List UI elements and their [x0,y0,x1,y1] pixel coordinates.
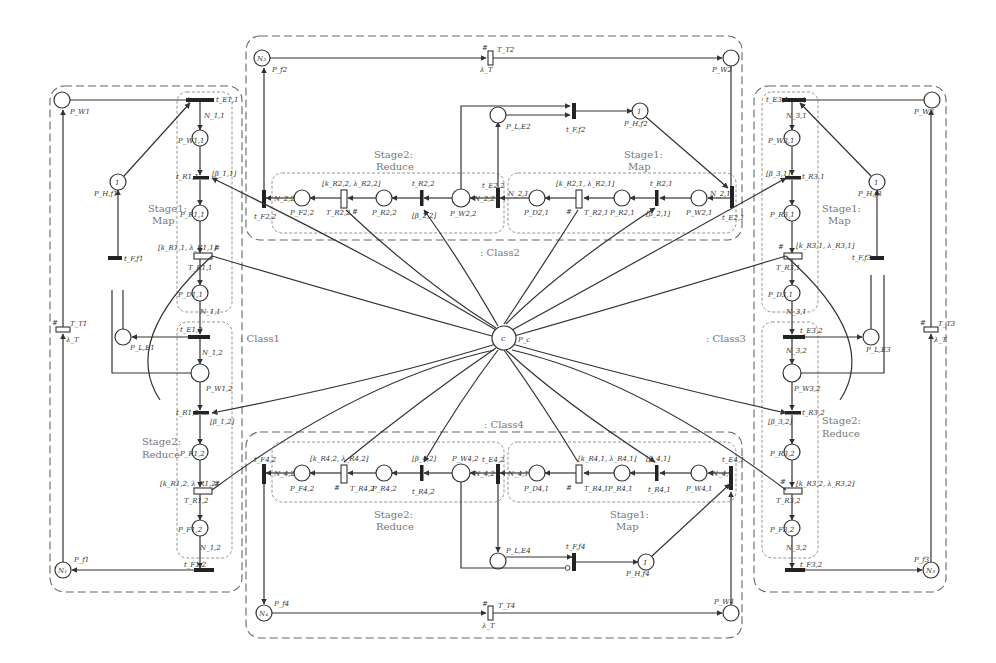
transition-TR41 [576,465,582,483]
svg-text:T_R2,1: T_R2,1 [584,209,609,217]
svg-text:#: # [52,319,58,327]
svg-text:1: 1 [115,179,119,187]
svg-text:Stage1:: Stage1: [822,203,861,214]
svg-text:#: # [482,44,488,52]
svg-text:P_D2,1: P_D2,1 [523,209,549,217]
transition-tff4 [572,553,576,571]
svg-text:P_H,f2: P_H,f2 [623,120,648,128]
place-pd21 [529,190,545,206]
svg-text:Stage2:: Stage2: [374,149,413,160]
svg-text:t_E4,2: t_E4,2 [482,456,505,464]
svg-text:T_R2,2: T_R2,2 [326,209,351,217]
transition-tf42 [262,464,266,484]
transition-tff3 [870,256,884,260]
svg-text:λ_T: λ_T [933,336,948,344]
place-ple3 [863,329,879,345]
transition-tr22 [420,190,424,206]
class3-boundary [754,86,946,592]
svg-text:N_3,1: N_3,1 [785,308,807,316]
svg-text:N_2,1: N_2,1 [507,190,529,198]
class2-label: : Class2 [480,247,520,258]
class1-stage2-subtitle: Reduce [142,449,180,460]
class1-stage2-title: Stage2: [142,436,181,447]
svg-text:t_E2,2: t_E2,2 [482,182,505,190]
place-pw42 [452,464,470,482]
svg-text:P_W3,2: P_W3,2 [793,385,821,393]
svg-text:P_R1,2: P_R1,2 [179,450,205,458]
svg-text:T_T4: T_T4 [498,602,515,610]
transition-tr42 [420,465,424,481]
svg-text:t_E3,1: t_E3,1 [766,96,789,104]
svg-text:[k_R2,1, λ_R2,1]: [k_R2,1, λ_R2,1] [556,180,615,188]
svg-text:P_R4,1: P_R4,1 [607,485,633,493]
class4-label: : Class4 [484,419,524,430]
svg-text:P_W1,1: P_W1,1 [177,137,205,145]
svg-text:P_R3,1: P_R3,1 [769,211,795,219]
svg-text:Stage2:: Stage2: [374,509,413,520]
svg-text:[k_R4,1, λ_R4,1]: [k_R4,1, λ_R4,1] [578,455,637,463]
central-token: c [501,334,506,343]
central-label: P_c [517,336,530,344]
svg-text:t_F,f3: t_F,f3 [852,254,872,262]
svg-text:λ_T: λ_T [479,66,494,74]
transition-tf22 [262,190,266,208]
class3-group: Stage1: Map Stage2: Reduce : Class3 P_W3… [706,86,956,592]
svg-text:t_F1,2: t_F1,2 [184,561,207,569]
svg-text:P_f3: P_f3 [913,556,930,564]
class1-stage1-box [177,92,232,312]
svg-text:Map: Map [616,521,639,532]
svg-text:P_H,f4: P_H,f4 [625,570,650,578]
transition-TT2 [488,51,493,65]
svg-text:N_1,2: N_1,2 [201,349,223,357]
svg-text:t_R1,1: t_R1,1 [176,173,199,181]
svg-text:N₃: N₃ [925,567,935,575]
svg-text:#: # [780,478,786,486]
svg-text:[k_R4,2, λ_R4,2]: [k_R4,2, λ_R4,2] [310,455,369,463]
place-pw32 [783,364,801,382]
svg-text:P_W4,2: P_W4,2 [451,455,479,463]
svg-text:#: # [352,208,358,216]
svg-text:1: 1 [874,179,878,187]
svg-text:P_F3,2: P_F3,2 [769,526,795,534]
svg-text:#: # [334,484,340,492]
svg-text:T_T2: T_T2 [497,46,515,54]
svg-text:T_R3,1: T_R3,1 [776,264,801,272]
svg-text:#: # [778,243,784,251]
transition-te11 [186,98,214,102]
svg-text:N_1,1: N_1,1 [203,112,225,120]
svg-text:P_F4,2: P_F4,2 [289,485,315,493]
svg-text:P_L,E3: P_L,E3 [865,346,891,354]
svg-text:Reduce: Reduce [376,161,414,172]
place-pw3 [924,92,940,108]
svg-text:N_3,1: N_3,1 [785,112,807,120]
transition-te22 [496,188,500,208]
transition-tff2 [572,103,576,119]
svg-text:#: # [920,319,926,327]
svg-text:N_4,1: N_4,1 [507,470,529,478]
transition-tr21 [655,190,659,206]
class4-group: Stage2: Reduce Stage1: Map : Class4 t_E4… [246,419,745,638]
svg-text:[β_1,2]: [β_1,2] [210,418,234,426]
svg-text:1: 1 [637,108,641,116]
svg-text:P_W2: P_W2 [711,66,732,74]
svg-text:P_W2,1: P_W2,1 [685,209,713,217]
svg-text:N_4,2: N_4,2 [273,470,295,478]
svg-text:P_H,f1: P_H,f1 [93,190,118,198]
svg-text:N_2,1: N_2,1 [709,190,731,198]
svg-text:P_L,E2: P_L,E2 [505,123,531,131]
svg-text:P_D1,1: P_D1,1 [177,291,203,299]
svg-text:P_F2,2: P_F2,2 [289,209,315,217]
svg-text:[k_R3,2, λ_R3,2]: [k_R3,2, λ_R3,2] [796,480,855,488]
place-pw1 [54,92,70,108]
svg-text:N_1,1: N_1,1 [199,308,221,316]
svg-text:P_W4,1: P_W4,1 [685,485,713,493]
svg-text:Map: Map [828,215,851,226]
svg-text:P_R3,2: P_R3,2 [769,450,795,458]
svg-text:[k_R1,1, λ_R1,1]: [k_R1,1, λ_R1,1] [158,244,217,252]
svg-text:t_F2,2: t_F2,2 [254,213,277,221]
class3-label: : Class3 [706,333,746,344]
transition-TR22 [341,190,347,208]
transition-tff1 [108,256,122,260]
svg-text:λ_T: λ_T [65,336,80,344]
svg-text:P_f1: P_f1 [73,556,89,564]
